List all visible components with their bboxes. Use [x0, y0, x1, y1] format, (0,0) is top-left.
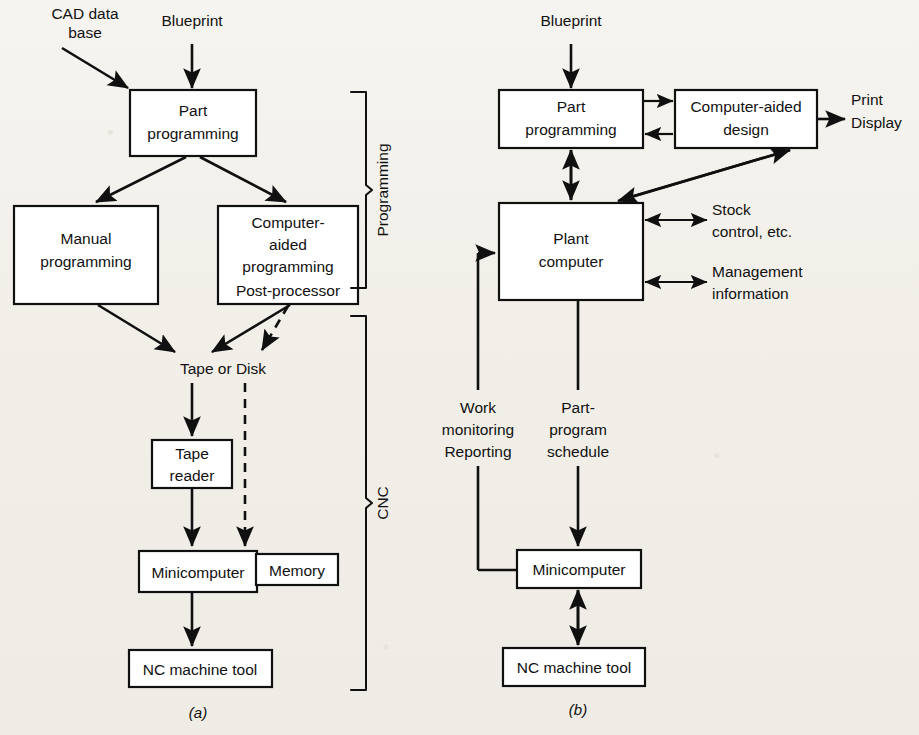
diagram-svg: CAD data base Blueprint Part programming… [0, 0, 919, 735]
label-work-monitoring-line1: Work [460, 399, 496, 416]
box-manual-programming-line2: programming [40, 253, 131, 270]
label-management-line2: information [712, 285, 789, 302]
label-cad-database-line1: CAD data [51, 5, 119, 22]
arrow-part-to-computer-aided [200, 157, 286, 202]
label-blueprint-b: Blueprint [540, 12, 602, 29]
label-print: Print [851, 91, 884, 108]
box-computer-aided-line4: Post-processor [236, 282, 340, 299]
label-work-monitoring-line3: Reporting [444, 443, 511, 460]
box-minicomputer-a-label: Minicomputer [151, 564, 244, 581]
box-tape-reader-line2: reader [170, 467, 215, 484]
label-stock-control-line2: control, etc. [712, 223, 792, 240]
arrow-part-to-manual [96, 157, 186, 202]
box-minicomputer-b-label: Minicomputer [532, 561, 625, 578]
label-blueprint-a: Blueprint [161, 12, 223, 29]
box-part-programming-a-line1: Part [179, 102, 208, 119]
box-nc-machine-tool-b-label: NC machine tool [517, 659, 632, 676]
arrow-cad-to-part-programming [62, 48, 128, 88]
caption-b: (b) [569, 701, 587, 718]
label-display: Display [851, 114, 902, 131]
box-memory-label: Memory [269, 562, 325, 579]
label-part-program-line1: Part- [561, 399, 595, 416]
figure-canvas: CAD data base Blueprint Part programming… [0, 0, 919, 735]
brace-cnc-label: CNC [374, 486, 391, 520]
caption-a: (a) [189, 704, 207, 721]
label-management-line1: Management [712, 263, 803, 280]
label-part-program-line3: schedule [547, 443, 609, 460]
label-part-program-line2: program [549, 421, 607, 438]
box-computer-aided-line3: programming [242, 258, 333, 275]
box-computer-aided-design-line1: Computer-aided [690, 98, 801, 115]
box-computer-aided-line2: aided [269, 236, 307, 253]
box-computer-aided-line1: Computer- [251, 214, 324, 231]
box-tape-reader-line1: Tape [175, 445, 209, 462]
box-manual-programming-line1: Manual [61, 230, 112, 247]
box-part-programming-b-line2: programming [525, 121, 616, 138]
brace-programming-label: Programming [374, 143, 391, 236]
box-part-programming-a-line2: programming [147, 125, 238, 142]
label-stock-control-line1: Stock [712, 201, 751, 218]
box-computer-aided-design-line2: design [723, 121, 769, 138]
box-plant-computer [499, 203, 643, 300]
box-part-programming-a [130, 90, 256, 156]
arrow-manual-to-tape [98, 305, 175, 352]
brace-cnc [351, 316, 372, 690]
label-tape-or-disk: Tape or Disk [180, 360, 266, 377]
arrow-computer-aided-to-tape [212, 305, 290, 352]
box-plant-computer-line2: computer [539, 253, 604, 270]
arrow-cad-to-plant [618, 150, 790, 201]
box-part-programming-b-line1: Part [557, 98, 586, 115]
box-nc-machine-tool-a-label: NC machine tool [143, 661, 258, 678]
label-work-monitoring-line2: monitoring [442, 421, 514, 438]
label-cad-database-line2: base [68, 24, 102, 41]
box-plant-computer-line1: Plant [553, 230, 589, 247]
